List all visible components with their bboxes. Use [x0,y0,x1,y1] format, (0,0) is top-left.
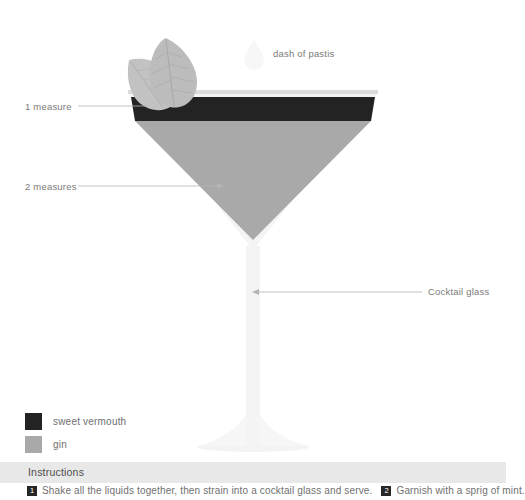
instruction-step-2: 2 Garnish with a sprig of mint. [381,485,524,496]
legend-item-sweet-vermouth: sweet vermouth [25,411,126,431]
mint-garnish [128,38,197,110]
instructions-title: Instructions [28,466,84,478]
annotation-dash-of-pastis: dash of pastis [273,48,334,59]
annotation-two-measures: 2 measures [25,181,77,192]
instructions-steps: 1 Shake all the liquids together, then s… [27,485,525,496]
pastis-droplet-icon [244,40,264,70]
legend-swatch-gin [25,436,42,453]
legend-swatch-sweet-vermouth [25,413,42,430]
annotation-one-measure: 1 measure [25,101,72,112]
legend-label-sweet-vermouth: sweet vermouth [53,416,126,427]
step-text-1: Shake all the liquids together, then str… [42,485,372,496]
liquid-gin [135,121,371,240]
annotation-cocktail-glass: Cocktail glass [428,286,489,297]
legend-label-gin: gin [53,439,67,450]
legend: sweet vermouth gin [25,411,126,457]
legend-item-gin: gin [25,434,126,454]
glass-stem [246,246,260,446]
step-number-badge-2: 2 [381,486,391,496]
step-text-2: Garnish with a sprig of mint. [396,485,524,496]
instruction-step-1: 1 Shake all the liquids together, then s… [27,485,372,496]
step-number-badge-1: 1 [27,486,37,496]
